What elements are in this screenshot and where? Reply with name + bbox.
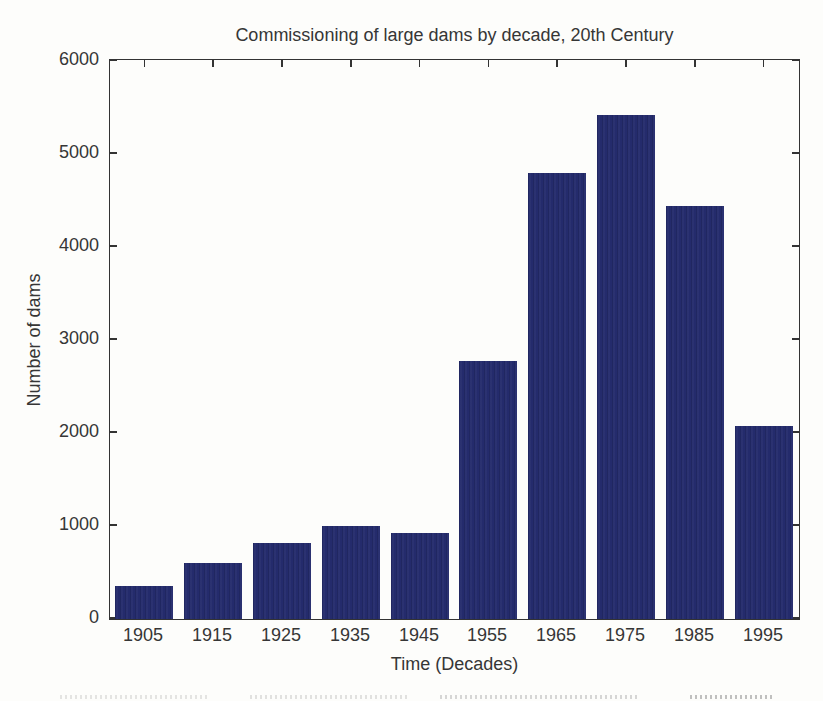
caption-fragment-segment — [690, 695, 775, 699]
plot-area — [109, 59, 800, 620]
caption-fragment-segment — [440, 695, 640, 699]
chart-title: Commissioning of large dams by decade, 2… — [109, 25, 800, 45]
y-tick-label-0: 0 — [0, 607, 99, 627]
bars-layer — [110, 60, 799, 619]
y-tick-label-3000: 3000 — [0, 328, 99, 348]
caption-fragment-segment — [250, 695, 410, 699]
x-tick-label-1995: 1995 — [723, 625, 803, 645]
bar-1905 — [115, 586, 173, 619]
x-tick-label-1985: 1985 — [654, 625, 734, 645]
y-tick-label-6000: 6000 — [0, 49, 99, 69]
bar-1925 — [253, 543, 311, 619]
y-tick-label-1000: 1000 — [0, 514, 99, 534]
x-axis-label: Time (Decades) — [109, 653, 800, 675]
x-tick-label-1955: 1955 — [447, 625, 527, 645]
x-tick-label-1935: 1935 — [310, 625, 390, 645]
bar-1955 — [459, 361, 517, 619]
x-tick-label-1925: 1925 — [241, 625, 321, 645]
y-tick-label-5000: 5000 — [0, 142, 99, 162]
x-tick-label-1915: 1915 — [172, 625, 252, 645]
figure-canvas: Commissioning of large dams by decade, 2… — [0, 0, 823, 701]
x-tick-label-1905: 1905 — [103, 625, 183, 645]
y-tick-label-2000: 2000 — [0, 421, 99, 441]
y-tick-label-4000: 4000 — [0, 235, 99, 255]
bar-1985 — [666, 206, 724, 619]
bar-1935 — [322, 526, 380, 619]
cropped-caption-fragment — [0, 692, 823, 701]
bar-1995 — [735, 426, 793, 619]
x-tick-label-1975: 1975 — [585, 625, 665, 645]
caption-fragment-segment — [60, 695, 210, 699]
bar-1975 — [597, 115, 655, 619]
bar-1945 — [391, 533, 449, 619]
x-tick-label-1965: 1965 — [516, 625, 596, 645]
bar-1915 — [184, 563, 242, 619]
bar-1965 — [528, 173, 586, 619]
